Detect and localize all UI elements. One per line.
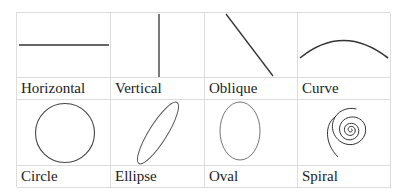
label-horizontal: Horizontal	[17, 78, 111, 100]
circle-icon	[17, 100, 110, 165]
oval-icon	[205, 100, 297, 165]
label-oblique: Oblique	[205, 78, 298, 100]
oblique-line-icon	[205, 13, 297, 77]
cell-oblique-drawing	[205, 13, 298, 78]
curve-icon	[298, 13, 390, 77]
horizontal-line-icon	[17, 13, 110, 77]
cell-oval-drawing	[205, 100, 298, 166]
label-curve: Curve	[298, 78, 391, 100]
cell-horizontal-drawing	[17, 13, 111, 78]
spiral-icon	[298, 100, 390, 165]
label-ellipse: Ellipse	[111, 166, 205, 188]
shape-table: Horizontal Vertical Oblique Curve Circle…	[16, 12, 390, 187]
cell-spiral-drawing	[298, 100, 391, 166]
cell-curve-drawing	[298, 13, 391, 78]
ellipse-icon	[111, 100, 204, 165]
label-oval: Oval	[205, 166, 298, 188]
label-circle: Circle	[17, 166, 111, 188]
cell-circle-drawing	[17, 100, 111, 166]
cell-vertical-drawing	[111, 13, 205, 78]
vertical-line-icon	[111, 13, 204, 77]
label-spiral: Spiral	[298, 166, 391, 188]
label-vertical: Vertical	[111, 78, 205, 100]
cell-ellipse-drawing	[111, 100, 205, 166]
